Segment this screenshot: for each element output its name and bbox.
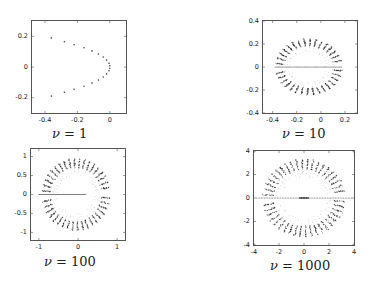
plot-area — [30, 148, 126, 241]
y-tick-label: 0 — [23, 191, 27, 198]
caption: ν = 100 — [44, 254, 96, 269]
nu-symbol: ν — [44, 254, 52, 269]
scatter-plot — [263, 21, 357, 113]
x-tick-label: -0.4 — [39, 117, 52, 124]
y-tick-label: 0.4 — [249, 18, 259, 25]
caption: ν = 10 — [282, 126, 326, 141]
x-tick-label: -0.4 — [266, 117, 279, 124]
x-tick-label: 0 — [76, 244, 80, 251]
x-tick-label: -2 — [276, 249, 282, 256]
x-tick-label: 1 — [115, 244, 119, 251]
x-tick-label: -1 — [36, 244, 42, 251]
y-tick-label: -0.5 — [14, 210, 27, 217]
y-tick-label: 0 — [246, 195, 250, 202]
y-tick-label: -0.2 — [246, 87, 259, 94]
y-tick-label: 0 — [24, 64, 28, 71]
scatter-plot — [31, 149, 125, 240]
x-tick-label: 2 — [327, 249, 331, 256]
y-tick-label: -2 — [244, 218, 250, 225]
x-tick-label: 0 — [319, 117, 323, 124]
y-tick-label: 4 — [246, 148, 250, 155]
x-tick-label: -0.2 — [71, 117, 84, 124]
y-tick-label: -0.4 — [246, 110, 259, 117]
caption-value: = 1 — [64, 126, 87, 141]
scatter-plot — [254, 151, 354, 245]
x-tick-label: 0 — [108, 117, 112, 124]
caption-value: = 1000 — [282, 258, 330, 273]
nu-symbol: ν — [270, 258, 278, 273]
caption: ν = 1 — [52, 126, 87, 141]
plot-area — [253, 150, 355, 246]
y-tick-label: -4 — [244, 242, 250, 249]
nu-symbol: ν — [282, 126, 290, 141]
plot-area — [262, 20, 358, 114]
y-tick-label: -1 — [21, 229, 27, 236]
x-tick-label: -0.2 — [290, 117, 303, 124]
caption-value: = 100 — [56, 254, 96, 269]
y-tick-label: 2 — [246, 171, 250, 178]
x-tick-label: 0 — [302, 249, 306, 256]
y-tick-label: 0.5 — [17, 172, 27, 179]
nu-symbol: ν — [52, 126, 60, 141]
y-tick-label: 0.2 — [249, 41, 259, 48]
x-tick-label: 4 — [352, 249, 356, 256]
x-tick-label: -4 — [251, 249, 257, 256]
y-tick-label: 0.2 — [18, 33, 28, 40]
caption-value: = 10 — [294, 126, 326, 141]
y-tick-label: -0.2 — [15, 94, 28, 101]
y-tick-label: 0 — [255, 64, 259, 71]
y-tick-label: 1 — [23, 153, 27, 160]
scatter-plot — [32, 21, 126, 113]
x-tick-label: 0.2 — [340, 117, 350, 124]
plot-area — [31, 20, 127, 114]
caption: ν = 1000 — [270, 258, 330, 273]
